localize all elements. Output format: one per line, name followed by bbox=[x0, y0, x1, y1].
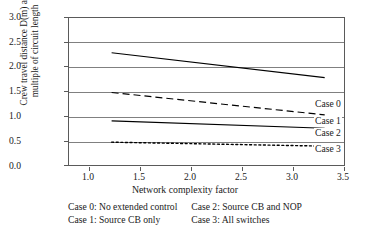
legend-row: Case 1: Source CB only Case 3: All switc… bbox=[68, 213, 302, 226]
series-line-case-2 bbox=[112, 121, 325, 128]
series-line-case-3 bbox=[112, 142, 325, 146]
x-tick-label-1.0: 1.0 bbox=[68, 172, 108, 182]
series-lines bbox=[69, 18, 346, 167]
y-tick-label-1.0: 1.0 bbox=[9, 111, 21, 121]
y-tick-label-1.5: 1.5 bbox=[9, 86, 21, 96]
series-label-case3: Case 3 bbox=[314, 144, 342, 154]
legend: Case 0: No extended control Case 2: Sour… bbox=[0, 200, 370, 226]
legend-item-case1: Case 1: Source CB only bbox=[68, 213, 191, 226]
legend-item-case3: Case 3: All switches bbox=[191, 213, 302, 226]
y-tick-label-2.0: 2.0 bbox=[9, 61, 21, 71]
x-tick-label-2.5: 2.5 bbox=[221, 172, 261, 182]
x-tick-label-3.5: 3.5 bbox=[323, 172, 363, 182]
x-tick-label-1.5: 1.5 bbox=[119, 172, 159, 182]
y-tick-label-0.0: 0.0 bbox=[9, 161, 21, 171]
x-axis-title: Network complexity factor bbox=[0, 184, 370, 195]
y-tick-label-2.5: 2.5 bbox=[9, 37, 21, 47]
y-tick-label-3.0: 3.0 bbox=[9, 12, 21, 22]
series-line-case-0 bbox=[112, 53, 325, 78]
legend-row: Case 0: No extended control Case 2: Sour… bbox=[68, 200, 302, 213]
series-label-case0: Case 0 bbox=[314, 99, 342, 109]
legend-item-case0: Case 0: No extended control bbox=[68, 200, 191, 213]
chart-figure: Crew travel distance D(m) as multiple of… bbox=[0, 0, 370, 238]
legend-item-case2: Case 2: Source CB and NOP bbox=[191, 200, 302, 213]
series-label-case2: Case 2 bbox=[314, 128, 342, 138]
plot-area bbox=[68, 17, 345, 166]
x-tick-label-2.0: 2.0 bbox=[170, 172, 210, 182]
y-tick-label-0.5: 0.5 bbox=[9, 136, 21, 146]
y-axis-title-line2: multiple of circuit length bbox=[30, 5, 41, 98]
series-label-case1: Case 1 bbox=[314, 116, 342, 126]
series-line-case-1 bbox=[112, 93, 325, 115]
x-tick-label-3.0: 3.0 bbox=[272, 172, 312, 182]
